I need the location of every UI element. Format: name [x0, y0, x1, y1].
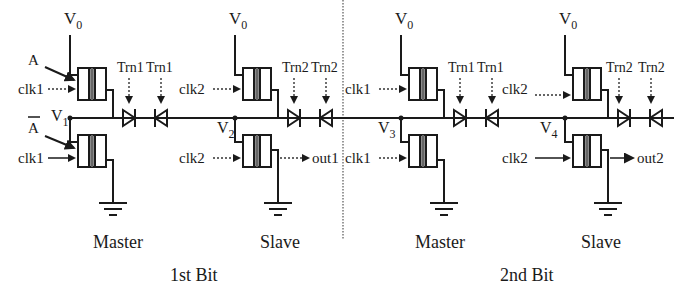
upper-out-wire: [601, 90, 608, 118]
clock-label-upper: clk2: [502, 81, 528, 97]
supply-label: V0: [395, 9, 413, 32]
supply-label: V0: [64, 9, 82, 32]
input-label-a-bar: A: [28, 120, 39, 136]
supply-label: V0: [559, 9, 577, 32]
input-label-a: A: [28, 52, 39, 68]
node-label-v2: V2: [217, 119, 235, 141]
ground-icon: [594, 203, 622, 215]
supply-label: V0: [229, 9, 247, 32]
diode-control-label: Trn1: [448, 60, 475, 75]
clock-label-lower: clk2: [179, 150, 205, 166]
diode-control-label: Trn1: [477, 60, 504, 75]
diode-control-label: Trn2: [282, 60, 309, 75]
diode-control-label: Trn2: [311, 60, 338, 75]
stage-bit2-master: V0 V3 clk1 clk1 Trn1 Trn1: [345, 9, 504, 252]
ground-icon: [430, 203, 458, 215]
node-dot: [399, 116, 404, 121]
ground-wire: [271, 150, 278, 202]
upper-out-wire: [271, 90, 278, 118]
output-label: out1: [312, 150, 339, 166]
master-slave-shift-register-diagram: V0 V1 clk1 clk1 A A: [0, 0, 674, 291]
upper-transistor: [573, 68, 601, 100]
clock-label-lower: clk1: [345, 150, 371, 166]
stage-bit1-slave: V0 V2 clk2 clk2 out1 Trn2: [179, 9, 339, 252]
stage-bit1-master: V0 V1 clk1 clk1 A A: [18, 9, 173, 252]
clock-label-lower: clk2: [502, 150, 528, 166]
lower-in-wire: [565, 118, 573, 142]
bit-caption-2: 2nd Bit: [500, 265, 554, 285]
stage-caption: Master: [93, 232, 143, 252]
upper-transistor: [409, 68, 437, 100]
ground-wire: [437, 160, 444, 202]
lower-in-wire: [70, 118, 78, 142]
node-label-v1: V1: [51, 107, 69, 129]
bit-caption-1: 1st Bit: [170, 265, 218, 285]
node-label-v4: V4: [540, 119, 558, 141]
diode-control-label: Trn2: [606, 60, 633, 75]
lower-transistor: [78, 135, 106, 167]
stage-caption: Master: [415, 232, 465, 252]
supply-wire: [235, 35, 243, 75]
stage-caption: Slave: [581, 232, 621, 252]
lower-transistor: [573, 135, 601, 167]
supply-wire: [565, 35, 573, 75]
node-label-v3: V3: [378, 119, 396, 141]
ground-wire: [106, 160, 113, 202]
diode-control-label: Trn1: [117, 60, 144, 75]
upper-out-wire: [437, 90, 444, 118]
upper-transistor: [243, 68, 271, 100]
ground-wire: [601, 150, 608, 202]
stage-bit2-slave: V0 V4 clk2 clk2 out2 Trn2: [502, 9, 665, 252]
supply-wire: [401, 35, 409, 75]
diode-control-label: Trn2: [638, 60, 665, 75]
node-dot: [233, 116, 238, 121]
clock-label-lower: clk1: [18, 150, 44, 166]
clock-label-upper: clk2: [179, 81, 205, 97]
node-dot: [563, 116, 568, 121]
ground-icon: [99, 203, 127, 215]
stage-caption: Slave: [260, 232, 300, 252]
clock-label-upper: clk1: [345, 81, 371, 97]
diode-control-label: Trn1: [146, 60, 173, 75]
lower-in-wire: [235, 118, 243, 142]
lower-transistor: [243, 135, 271, 167]
lower-in-wire: [401, 118, 409, 142]
upper-out-wire: [106, 90, 113, 118]
output-label: out2: [637, 150, 664, 166]
supply-wire: [70, 35, 78, 75]
upper-transistor: [78, 68, 106, 100]
ground-icon: [264, 203, 292, 215]
lower-transistor: [409, 135, 437, 167]
clock-label-upper: clk1: [18, 81, 44, 97]
